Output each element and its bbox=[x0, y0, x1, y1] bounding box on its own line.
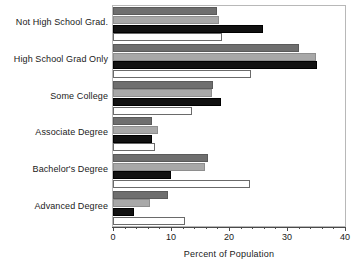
bar-1-2 bbox=[113, 61, 317, 69]
bar-0-3 bbox=[113, 33, 222, 41]
x-tick-label-1: 10 bbox=[156, 232, 186, 243]
bar-5-1 bbox=[113, 199, 150, 207]
x-tick-label-3: 30 bbox=[272, 232, 302, 243]
bar-2-0 bbox=[113, 81, 213, 89]
x-tick-minor-12 bbox=[183, 227, 184, 229]
x-tick-minor-24 bbox=[252, 227, 253, 229]
x-tick-major-10 bbox=[171, 227, 172, 231]
x-tick-minor-34 bbox=[310, 227, 311, 229]
category-label-0: Not High School Grad. bbox=[0, 17, 108, 27]
x-tick-minor-8 bbox=[159, 227, 160, 229]
bar-5-2 bbox=[113, 208, 134, 216]
bar-1-1 bbox=[113, 53, 316, 61]
category-label-4: Bachelor's Degree bbox=[0, 164, 108, 174]
x-tick-minor-38 bbox=[333, 227, 334, 229]
category-label-3: Associate Degree bbox=[0, 127, 108, 137]
bar-4-2 bbox=[113, 171, 171, 179]
x-tick-minor-22 bbox=[241, 227, 242, 229]
bar-4-0 bbox=[113, 154, 208, 162]
x-tick-minor-4 bbox=[136, 227, 137, 229]
bar-3-3 bbox=[113, 143, 155, 151]
x-tick-minor-14 bbox=[194, 227, 195, 229]
bar-3-2 bbox=[113, 135, 152, 143]
category-label-1: High School Grad Only bbox=[0, 54, 108, 64]
bar-0-0 bbox=[113, 7, 217, 15]
x-tick-label-2: 20 bbox=[214, 232, 244, 243]
x-tick-minor-2 bbox=[125, 227, 126, 229]
x-tick-minor-28 bbox=[275, 227, 276, 229]
bar-2-3 bbox=[113, 107, 192, 115]
bar-3-0 bbox=[113, 117, 152, 125]
x-tick-major-30 bbox=[287, 227, 288, 231]
bar-2-1 bbox=[113, 89, 212, 97]
bar-5-0 bbox=[113, 191, 168, 199]
x-tick-major-0 bbox=[113, 227, 114, 231]
x-tick-minor-6 bbox=[148, 227, 149, 229]
x-tick-label-4: 40 bbox=[330, 232, 360, 243]
bar-1-0 bbox=[113, 44, 299, 52]
category-axis-labels: Not High School Grad.High School Grad On… bbox=[0, 5, 108, 227]
x-axis-title: Percent of Population bbox=[112, 249, 346, 260]
x-tick-minor-32 bbox=[299, 227, 300, 229]
x-tick-minor-16 bbox=[206, 227, 207, 229]
x-tick-label-0: 0 bbox=[98, 232, 128, 243]
category-label-2: Some College bbox=[0, 91, 108, 101]
bar-0-2 bbox=[113, 25, 263, 33]
bar-4-1 bbox=[113, 163, 205, 171]
bar-4-3 bbox=[113, 180, 250, 188]
bars-layer bbox=[113, 6, 345, 226]
x-tick-minor-26 bbox=[264, 227, 265, 229]
x-tick-major-20 bbox=[229, 227, 230, 231]
x-tick-minor-36 bbox=[322, 227, 323, 229]
category-label-5: Advanced Degree bbox=[0, 201, 108, 211]
bar-3-1 bbox=[113, 126, 158, 134]
x-tick-major-40 bbox=[345, 227, 346, 231]
bar-5-3 bbox=[113, 217, 185, 225]
bar-chart-figure: Not High School Grad.High School Grad On… bbox=[0, 0, 363, 268]
bar-1-3 bbox=[113, 70, 251, 78]
bar-0-1 bbox=[113, 16, 219, 24]
x-tick-minor-18 bbox=[217, 227, 218, 229]
bar-2-2 bbox=[113, 98, 221, 106]
